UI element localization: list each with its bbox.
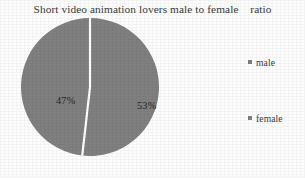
pie-label-female-percent: 47% [56,95,75,106]
legend-swatch-male-icon [248,60,252,64]
legend-item-male[interactable]: male [248,56,275,68]
legend-swatch-female-icon [248,116,252,120]
chart-title: Short video animation lovers male to fem… [0,2,305,17]
legend-label-male: male [256,57,275,68]
pie-slice-female[interactable] [21,18,90,156]
pie-chart-svg [20,18,160,156]
pie-slice-male[interactable] [82,18,159,156]
pie-chart-plot-area: 47% 53% [20,18,160,156]
legend-item-female[interactable]: female [248,112,283,124]
legend-label-female: female [256,113,283,124]
pie-label-male-percent: 53% [137,100,156,111]
chart-figure: Short video animation lovers male to fem… [0,0,305,178]
chart-legend: male female [248,52,305,132]
